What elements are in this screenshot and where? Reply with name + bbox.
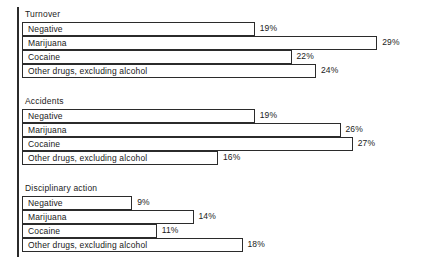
bar: Other drugs, excluding alcohol (22, 64, 316, 78)
bar-value-label: 9% (137, 196, 150, 210)
bar: Negative (22, 22, 255, 36)
bar: Cocaine (22, 50, 292, 64)
bar-value-label: 27% (358, 137, 375, 151)
bar-label: Negative (28, 110, 63, 124)
bar: Marijuana (22, 36, 377, 50)
bar: Other drugs, excluding alcohol (22, 238, 243, 252)
bar-chart: TurnoverNegative19%Marijuana29%Cocaine22… (0, 0, 421, 269)
bar-value-label: 14% (199, 210, 216, 224)
bar-value-label: 19% (260, 22, 277, 36)
bar: Cocaine (22, 224, 157, 238)
bar: Marijuana (22, 210, 194, 224)
section-title: Turnover (25, 8, 60, 21)
bar-label: Cocaine (28, 138, 60, 152)
bar-label: Cocaine (28, 51, 60, 65)
bar-label: Marijuana (28, 124, 67, 138)
bar-value-label: 24% (321, 64, 338, 78)
bar-value-label: 11% (162, 224, 179, 238)
bar-value-label: 29% (382, 36, 399, 50)
bar-label: Cocaine (28, 225, 60, 239)
bar-value-label: 19% (260, 109, 277, 123)
bar-value-label: 18% (248, 238, 265, 252)
bar: Cocaine (22, 137, 353, 151)
bar: Marijuana (22, 123, 341, 137)
bar: Negative (22, 109, 255, 123)
bar-label: Negative (28, 197, 63, 211)
bar-value-label: 26% (346, 123, 363, 137)
bar-label: Marijuana (28, 211, 67, 225)
bar-label: Negative (28, 23, 63, 37)
bar-value-label: 16% (223, 151, 240, 165)
bar-label: Other drugs, excluding alcohol (28, 239, 147, 253)
bar-label: Other drugs, excluding alcohol (28, 65, 147, 79)
vertical-axis-line (17, 7, 19, 257)
bar: Other drugs, excluding alcohol (22, 151, 218, 165)
bar-label: Other drugs, excluding alcohol (28, 152, 147, 166)
bar-label: Marijuana (28, 37, 67, 51)
section-title: Disciplinary action (25, 182, 97, 195)
section-title: Accidents (25, 95, 64, 108)
bar: Negative (22, 196, 132, 210)
bar-value-label: 22% (297, 50, 314, 64)
